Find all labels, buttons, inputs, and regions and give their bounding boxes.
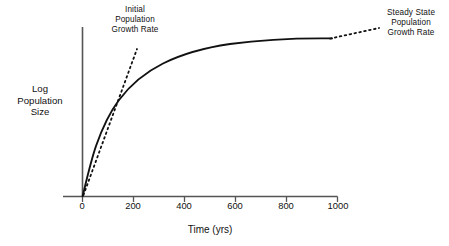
x-tick-label-200: 200 — [113, 200, 153, 211]
y-axis-label-line-2: Population — [4, 95, 76, 107]
annotation-steady-state-growth-rate: Steady State Population Growth Rate — [374, 8, 448, 39]
annotation-steady-line-1: Steady State — [374, 8, 448, 18]
growth-curve — [83, 38, 332, 196]
y-axis-label-line-3: Size — [4, 106, 76, 118]
annotation-steady-line-2: Population — [374, 18, 448, 28]
y-axis-label-line-1: Log — [4, 83, 76, 95]
x-tick-label-400: 400 — [164, 200, 204, 211]
steady-state-asymptote-line — [330, 28, 379, 39]
x-axis-label: Time (yrs) — [130, 224, 290, 235]
annotation-initial-line-3: Growth Rate — [94, 25, 176, 35]
y-axis-label: Log Population Size — [4, 83, 76, 118]
x-tick-label-0: 0 — [62, 200, 102, 211]
annotation-initial-growth-rate: Initial Population Growth Rate — [94, 5, 176, 36]
x-tick-label-800: 800 — [266, 200, 306, 211]
population-growth-chart: Log Population Size Time (yrs) 0 200 400… — [0, 0, 449, 246]
x-tick-label-600: 600 — [215, 200, 255, 211]
annotation-initial-line-2: Population — [94, 15, 176, 25]
annotation-steady-line-3: Growth Rate — [374, 28, 448, 38]
annotation-initial-line-1: Initial — [94, 5, 176, 15]
initial-growth-tangent-line — [84, 49, 138, 195]
x-tick-label-1000: 1000 — [318, 200, 358, 211]
